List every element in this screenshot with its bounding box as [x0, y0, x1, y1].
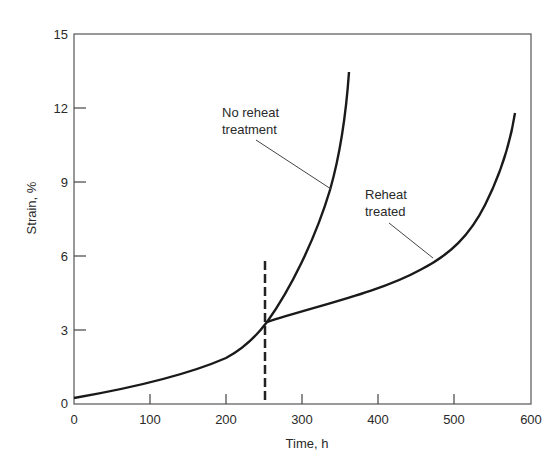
- no-reheat-curve: [74, 72, 349, 398]
- x-tick-labels: 0 100 200 300 400 500 600: [70, 412, 541, 427]
- reheat-leader-line: [389, 223, 433, 258]
- y-tick-label: 3: [61, 323, 68, 338]
- y-tick-label: 9: [61, 175, 68, 190]
- x-tick-label: 0: [70, 412, 77, 427]
- x-tick-label: 400: [367, 412, 389, 427]
- y-axis-title: Strain, %: [24, 181, 39, 234]
- no-reheat-label-line1: No reheat: [222, 105, 279, 120]
- x-tick-label: 600: [520, 412, 542, 427]
- y-tick-label: 15: [54, 27, 68, 42]
- reheat-label-line2: treated: [365, 204, 405, 219]
- x-tick-label: 200: [215, 412, 237, 427]
- x-tick-label: 500: [443, 412, 465, 427]
- x-tick-label: 100: [139, 412, 161, 427]
- y-tick-label: 0: [61, 396, 68, 411]
- x-axis-title: Time, h: [286, 436, 329, 451]
- creep-strain-chart: 0 3 6 9 12 15 0 100 200 300 400 500 600 …: [0, 0, 556, 475]
- y-tick-labels: 0 3 6 9 12 15: [54, 27, 68, 411]
- x-tick-label: 300: [291, 412, 313, 427]
- y-tick-label: 12: [54, 101, 68, 116]
- no-reheat-label-line2: treatment: [222, 122, 277, 137]
- y-tick-label: 6: [61, 249, 68, 264]
- no-reheat-leader-line: [256, 140, 331, 189]
- x-axis-ticks: [150, 394, 454, 404]
- y-axis-ticks: [74, 108, 86, 330]
- plot-frame: [74, 34, 531, 404]
- reheat-label-line1: Reheat: [365, 187, 407, 202]
